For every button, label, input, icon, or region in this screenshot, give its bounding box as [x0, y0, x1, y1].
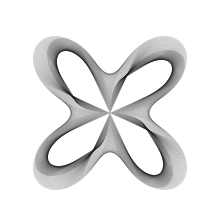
four-petal-rose-drawing — [0, 0, 220, 223]
line-pattern — [33, 36, 187, 190]
rose-lines — [33, 36, 187, 190]
string-art-figure — [0, 0, 220, 223]
